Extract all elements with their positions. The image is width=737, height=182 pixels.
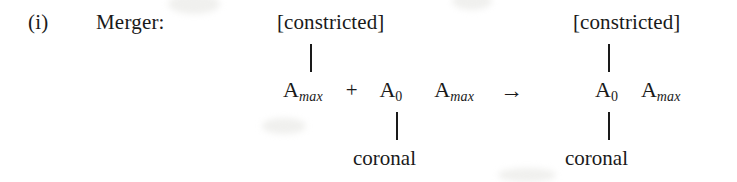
output-segment-a-max: Amax — [641, 77, 681, 102]
root-node-letter: A — [641, 77, 657, 102]
root-node-letter: A — [595, 77, 611, 102]
input-segment-a-max-1: Amax — [283, 77, 323, 102]
input-top-association-line — [310, 44, 312, 72]
scan-artifact — [262, 118, 306, 134]
output-top-feature-label: [constricted] — [573, 12, 680, 33]
output-bottom-association-line — [608, 112, 610, 140]
root-node-subscript: max — [299, 89, 323, 104]
rule-name-label: Merger: — [96, 12, 165, 33]
root-node-subscript: 0 — [611, 89, 618, 104]
root-node-subscript: max — [657, 89, 681, 104]
scan-artifact — [498, 168, 556, 182]
rule-enumeration: (i) — [28, 12, 48, 33]
scan-artifact — [452, 0, 492, 10]
root-node-subscript: 0 — [395, 89, 402, 104]
input-top-feature-label: [constricted] — [277, 12, 384, 33]
output-segment-a-zero: A0 — [595, 77, 618, 102]
input-bottom-feature-label: coronal — [353, 148, 416, 169]
merger-rule-figure: (i) Merger: [constricted] Amax + A0 Amax… — [0, 0, 737, 182]
rewrite-arrow-icon: → — [500, 79, 523, 102]
scan-artifact — [168, 0, 220, 14]
root-node-subscript: max — [450, 89, 474, 104]
output-root-tier: A0 Amax — [595, 79, 681, 104]
input-concat-operator: + — [343, 78, 361, 102]
output-bottom-feature-label: coronal — [565, 148, 628, 169]
root-node-letter: A — [434, 77, 450, 102]
root-node-letter: A — [283, 77, 299, 102]
input-segment-a-max-2: Amax — [434, 77, 474, 102]
input-segment-a-zero: A0 — [379, 77, 402, 102]
input-bottom-association-line — [396, 112, 398, 140]
root-node-letter: A — [379, 77, 395, 102]
output-top-association-line — [608, 44, 610, 72]
input-root-tier: Amax + A0 Amax — [283, 79, 474, 104]
